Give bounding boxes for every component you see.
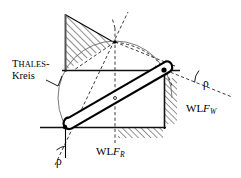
wl-fw-subscript: W xyxy=(210,107,217,116)
figure-root: THALES- Kreis WLFW WLFR ρ ρ xyxy=(0,0,241,178)
thales-rest-letters: HALES xyxy=(19,60,47,69)
wl-fr-subscript: R xyxy=(120,150,125,159)
wl-fw-label: WLFW xyxy=(186,103,216,116)
rod-link xyxy=(64,61,173,129)
thales-kreis-label-line2: Kreis xyxy=(12,70,35,81)
wl-fw-prefix: WL xyxy=(186,102,203,114)
rho-right-label: ρ xyxy=(203,77,209,89)
hatch-upper-left-wedge xyxy=(66,15,115,70)
hatch-bottom-ground xyxy=(118,128,163,138)
angle-arc-rho-right xyxy=(195,71,199,83)
thales-kreis-label-line1: THALES- xyxy=(12,58,50,70)
wl-fw-force-symbol: F xyxy=(203,102,210,114)
thales-hyphen: - xyxy=(46,58,50,69)
wl-fr-prefix: WL xyxy=(96,145,113,157)
wl-fr-label: WLFR xyxy=(96,146,125,159)
wl-fr-force-symbol: F xyxy=(113,145,120,157)
rho-left-label: ρ xyxy=(56,155,62,167)
